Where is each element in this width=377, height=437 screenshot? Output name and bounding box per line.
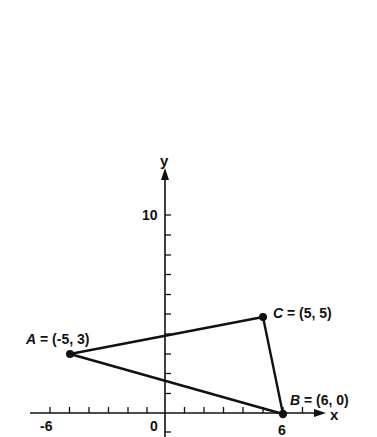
y-axis: y 10: [142, 152, 171, 437]
edge-ac: [70, 317, 263, 354]
y-tick-label-10: 10: [142, 207, 158, 223]
edge-ba: [70, 354, 283, 414]
point-b-dot: [279, 410, 287, 418]
point-c-coords: = (5, 5): [283, 305, 332, 321]
point-a-label: A = (-5, 3): [25, 331, 89, 347]
x-axis-arrow-icon: [314, 409, 326, 417]
edge-cb: [263, 317, 283, 414]
y-axis-ticks: [165, 215, 171, 432]
x-axis: x -6 0 6: [30, 406, 339, 437]
point-c-dot: [259, 313, 267, 321]
x-tick-label-6: 6: [278, 422, 286, 437]
point-b-coords: = (6, 0): [300, 392, 349, 408]
triangle-abc: [70, 317, 283, 414]
x-axis-label: x: [330, 406, 339, 423]
coordinate-plane-diagram: x -6 0 6 y 10 A = (-5,: [0, 0, 377, 437]
point-c: C = (5, 5): [259, 305, 332, 321]
y-axis-label: y: [160, 152, 169, 169]
point-a-coords: = (-5, 3): [36, 331, 89, 347]
point-a-letter: A: [25, 331, 36, 347]
point-b-letter: B: [290, 392, 300, 408]
x-tick-label-0: 0: [150, 418, 158, 434]
point-a: A = (-5, 3): [25, 331, 89, 358]
point-a-dot: [66, 350, 74, 358]
point-c-label: C = (5, 5): [273, 305, 332, 321]
y-axis-arrow-icon: [161, 168, 169, 180]
x-tick-label-neg6: -6: [40, 418, 53, 434]
point-b-label: B = (6, 0): [290, 392, 349, 408]
